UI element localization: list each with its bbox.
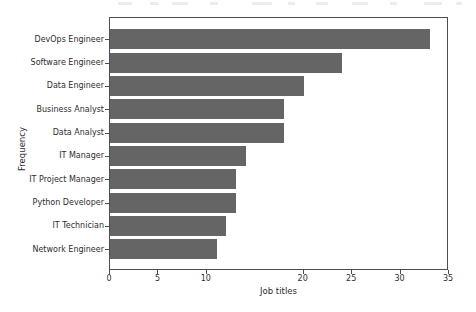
xtick-label-35: 35 bbox=[443, 274, 453, 283]
ytick-mark bbox=[105, 133, 109, 134]
ytick-label-python-developer: Python Developer bbox=[0, 197, 104, 208]
xtick-label-5: 5 bbox=[155, 274, 160, 283]
ytick-label-devops-engineer: DevOps Engineer bbox=[0, 34, 104, 45]
ytick-mark bbox=[105, 109, 109, 110]
ytick-label-data-engineer: Data Engineer bbox=[0, 80, 104, 91]
artifact-smudge bbox=[118, 2, 132, 5]
bar-data-analyst bbox=[110, 123, 284, 143]
xtick-label-25: 25 bbox=[346, 274, 356, 283]
ytick-mark bbox=[105, 226, 109, 227]
ytick-mark bbox=[105, 86, 109, 87]
ytick-mark bbox=[105, 203, 109, 204]
artifact-smudge bbox=[316, 2, 328, 5]
bar-software-engineer bbox=[110, 53, 342, 73]
bar-it-project-manager bbox=[110, 169, 236, 189]
artifact-smudge bbox=[172, 2, 188, 5]
x-axis-label: Job titles bbox=[109, 286, 448, 296]
artifact-smudge bbox=[210, 2, 218, 5]
bar-python-developer bbox=[110, 193, 236, 213]
xtick-label-30: 30 bbox=[394, 274, 404, 283]
bar-network-engineer bbox=[110, 239, 217, 259]
bar-data-engineer bbox=[110, 76, 304, 96]
ytick-label-it-manager: IT Manager bbox=[0, 150, 104, 161]
artifact-smudge bbox=[424, 2, 442, 5]
xtick-label-0: 0 bbox=[106, 274, 111, 283]
ytick-label-network-engineer: Network Engineer bbox=[0, 244, 104, 255]
artifact-smudge bbox=[390, 2, 397, 5]
artifact-smudge bbox=[150, 2, 159, 5]
artifact-smudge bbox=[288, 2, 295, 5]
artifact-smudge bbox=[456, 2, 462, 5]
ytick-label-data-analyst: Data Analyst bbox=[0, 127, 104, 138]
ytick-mark bbox=[105, 156, 109, 157]
bar-it-manager bbox=[110, 146, 246, 166]
bar-devops-engineer bbox=[110, 29, 430, 49]
ytick-label-software-engineer: Software Engineer bbox=[0, 57, 104, 68]
ytick-label-it-project-manager: IT Project Manager bbox=[0, 174, 104, 185]
ytick-label-it-technician: IT Technician bbox=[0, 220, 104, 231]
ytick-mark bbox=[105, 63, 109, 64]
ytick-label-business-analyst: Business Analyst bbox=[0, 104, 104, 115]
bar-chart-figure: Frequency DevOps EngineerSoftware Engine… bbox=[0, 0, 476, 312]
ytick-mark bbox=[105, 249, 109, 250]
ytick-mark bbox=[105, 179, 109, 180]
bar-it-technician bbox=[110, 216, 226, 236]
bar-business-analyst bbox=[110, 99, 284, 119]
ytick-mark bbox=[105, 39, 109, 40]
artifact-smudge bbox=[252, 2, 272, 5]
plot-area bbox=[109, 17, 448, 270]
artifact-smudge bbox=[352, 2, 368, 5]
xtick-label-20: 20 bbox=[298, 274, 308, 283]
xtick-label-10: 10 bbox=[201, 274, 211, 283]
